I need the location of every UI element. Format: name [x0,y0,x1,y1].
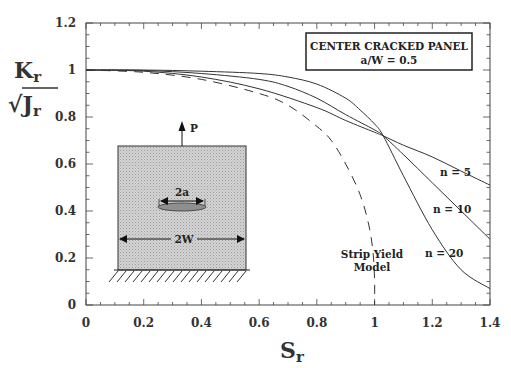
x-axis-title: Sr [280,337,305,366]
label-n5: n = 5 [440,166,471,178]
x-title-s: S [280,337,296,363]
x-tick-label: 0.2 [133,316,154,330]
legend-box: CENTER CRACKED PANEL a/W = 0.5 [306,33,472,70]
label-n10: n = 10 [433,203,471,215]
inset-panel-diagram: P 2a 2W [109,121,250,282]
svg-text:Kr: Kr [14,57,42,86]
x-tick-label: 1 [370,316,378,330]
load-arrow-icon [179,121,186,131]
y-tick-label: 0.6 [55,157,76,171]
y-title-sqrt-j: √J [8,91,33,117]
load-label: P [190,122,198,134]
chart: 00.20.40.60.811.21.400.20.40.60.811.2 Kr… [0,0,511,368]
y-tick-label: 0.4 [55,204,76,218]
x-tick-label: 0.6 [249,316,270,330]
x-tick-label: 1.4 [480,316,501,330]
label-strip-yield-2: Model [354,261,391,273]
y-axis-title: Kr √Jr [8,57,58,120]
y-tick-label: 1 [68,63,76,77]
x-tick-label: 0.4 [191,316,212,330]
y-tick-label: 0.8 [55,110,76,124]
y-tick-label: 0.2 [55,251,76,265]
label-n20: n = 20 [425,247,463,259]
x-title-s-sub: r [296,348,305,366]
ground-hatch [109,271,246,282]
crack-ellipse [158,203,206,211]
y-title-k: K [14,57,34,83]
width-label: 2W [174,233,193,245]
x-tick-label: 0.8 [306,316,327,330]
y-title-j-sub: r [33,102,42,120]
legend-title: CENTER CRACKED PANEL [310,40,469,52]
svg-text:Sr: Sr [280,337,305,366]
x-tick-label: 1.2 [422,316,443,330]
y-tick-label: 0 [68,298,76,312]
crack-label: 2a [175,186,189,198]
x-tick-label: 0 [82,316,90,330]
legend-subtitle: a/W = 0.5 [361,54,418,66]
y-title-k-sub: r [33,68,42,86]
label-strip-yield-1: Strip Yield [341,248,404,260]
y-tick-label: 1.2 [55,16,76,30]
svg-text:√Jr: √Jr [8,91,42,120]
